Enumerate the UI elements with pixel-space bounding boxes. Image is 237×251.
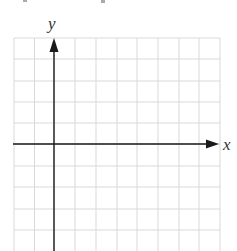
cropped-text-fragments bbox=[23, 0, 105, 3]
y-axis-arrow-icon bbox=[50, 38, 59, 52]
x-axis-arrow-icon bbox=[206, 140, 219, 149]
x-axis-label: x bbox=[222, 135, 231, 154]
y-axis-label: y bbox=[46, 14, 56, 33]
coordinate-plane: x y bbox=[0, 0, 237, 251]
